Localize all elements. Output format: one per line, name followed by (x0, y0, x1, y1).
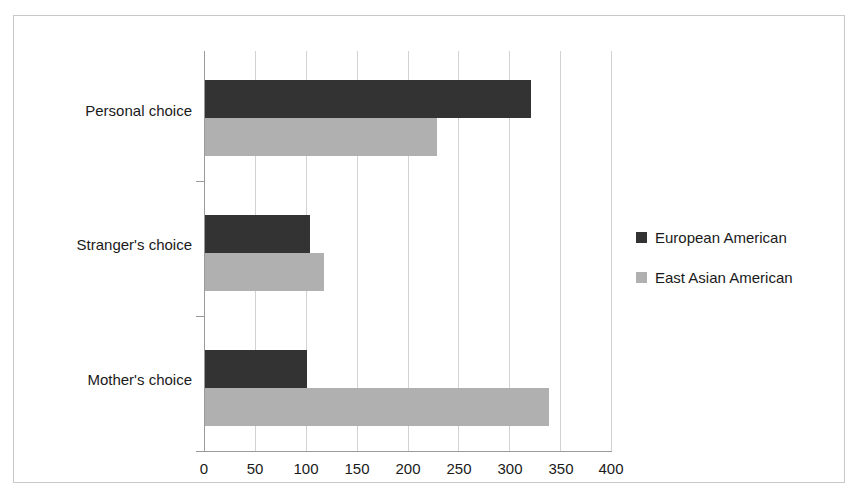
bar-strangers-choice-east-asian-american (205, 253, 324, 291)
chart-figure: Personal choice Stranger's choice Mother… (0, 0, 859, 495)
legend-label-european-american: European American (655, 229, 787, 246)
legend-label-east-asian-american: East Asian American (655, 269, 793, 286)
xtick-label-0: 0 (182, 460, 226, 477)
plot-area (204, 51, 612, 451)
chart-legend: European American East Asian American (636, 228, 836, 308)
bar-mothers-choice-european-american (205, 350, 307, 388)
gridline-350 (560, 51, 561, 451)
bar-personal-choice-european-american (205, 80, 531, 118)
xtick-label-50: 50 (233, 460, 277, 477)
xtick-label-300: 300 (488, 460, 532, 477)
bar-personal-choice-east-asian-american (205, 118, 437, 156)
category-label-mothers-choice: Mother's choice (24, 371, 192, 388)
category-tick-1 (196, 181, 204, 182)
legend-item-european-american: European American (636, 228, 836, 246)
xtick-label-350: 350 (539, 460, 583, 477)
category-tick-3 (196, 451, 204, 452)
xtick-label-100: 100 (284, 460, 328, 477)
xtick-label-400: 400 (589, 460, 633, 477)
category-label-strangers-choice: Stranger's choice (24, 236, 192, 253)
xtick-label-250: 250 (437, 460, 481, 477)
gridline-400 (611, 51, 612, 451)
value-axis-line (204, 451, 612, 452)
category-label-personal-choice: Personal choice (24, 102, 192, 119)
category-axis-labels: Personal choice Stranger's choice Mother… (14, 16, 192, 495)
chart-frame: Personal choice Stranger's choice Mother… (13, 15, 845, 483)
legend-swatch-east-asian-american (636, 272, 647, 283)
category-tick-2 (196, 316, 204, 317)
bar-mothers-choice-east-asian-american (205, 388, 549, 426)
xtick-label-200: 200 (386, 460, 430, 477)
legend-item-east-asian-american: East Asian American (636, 268, 836, 286)
legend-swatch-european-american (636, 232, 647, 243)
bar-strangers-choice-european-american (205, 215, 310, 253)
xtick-label-150: 150 (335, 460, 379, 477)
